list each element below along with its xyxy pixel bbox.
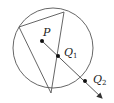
point-q2: [83, 79, 87, 83]
label-q2: Q2: [93, 73, 107, 87]
point-q1: [56, 54, 60, 58]
point-p: [40, 39, 44, 43]
circle: [13, 8, 93, 88]
label-q1: Q1: [64, 46, 78, 60]
geometry-diagram: PQ1Q2: [0, 0, 114, 103]
label-p: P: [42, 26, 51, 39]
points-group: PQ1Q2: [40, 26, 107, 87]
inscribed-triangle: [19, 12, 64, 93]
